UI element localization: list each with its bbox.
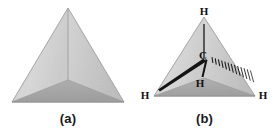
atom-label-c-center: C <box>199 49 207 61</box>
atom-label-h-bottom-left: H <box>141 89 150 101</box>
tetrahedron-plain-svg <box>0 0 136 128</box>
atom-label-h-front: H <box>196 77 205 89</box>
panel-b-caption: (b) <box>136 112 273 126</box>
tetrahedron-methane-svg: H C H H H <box>136 0 273 128</box>
panel-a-caption: (a) <box>0 112 136 126</box>
figure-panel-b: H C H H H (b) <box>136 0 273 128</box>
figure-panel-a: (a) <box>0 0 136 128</box>
atom-label-h-top: H <box>200 5 209 17</box>
atom-label-h-bottom-right: H <box>259 89 268 101</box>
figure-container: (a) <box>0 0 273 128</box>
